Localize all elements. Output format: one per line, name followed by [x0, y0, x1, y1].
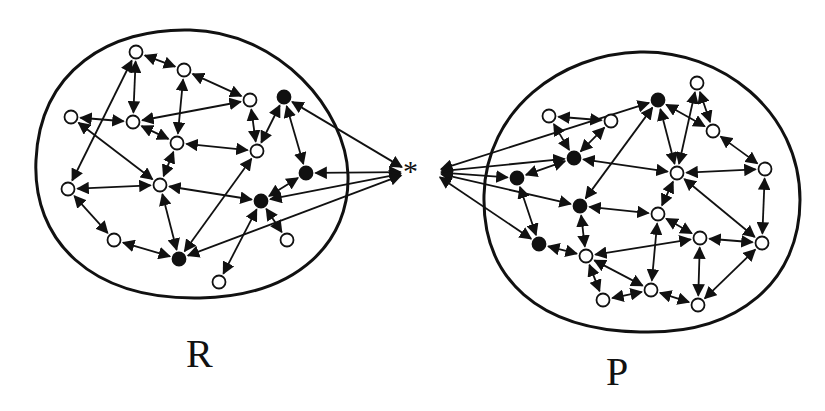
- edge-arrow: [145, 55, 175, 66]
- edge-arrow: [762, 178, 764, 233]
- region-r-boundary: [36, 30, 348, 298]
- network-diagram: [0, 0, 825, 411]
- edge-arrow: [586, 108, 653, 199]
- edge-arrow: [269, 178, 298, 196]
- filled-node: [568, 152, 581, 165]
- filled-node: [533, 238, 546, 251]
- open-node: [605, 115, 618, 128]
- open-node: [756, 237, 769, 250]
- filled-node: [300, 167, 313, 180]
- filled-node: [574, 200, 587, 213]
- edge-arrow: [441, 159, 564, 171]
- edge-arrow: [612, 292, 641, 298]
- open-node: [759, 163, 772, 176]
- edge-arrow: [74, 196, 107, 233]
- edge-arrow: [652, 223, 657, 280]
- open-node: [213, 276, 226, 289]
- edge-arrow: [700, 92, 710, 122]
- edge-arrow: [666, 105, 704, 127]
- edge-arrow: [721, 137, 758, 164]
- edge-arrow: [123, 243, 170, 257]
- open-node: [281, 234, 294, 247]
- edge-arrow: [662, 182, 673, 206]
- open-node: [580, 250, 593, 263]
- open-node: [251, 145, 264, 158]
- edge-arrow: [162, 194, 176, 250]
- region-r-label: R: [186, 334, 213, 374]
- open-node: [178, 64, 191, 77]
- edge-arrow: [142, 126, 169, 139]
- open-node: [244, 94, 257, 107]
- open-node: [671, 167, 684, 180]
- edge-arrow: [581, 128, 605, 152]
- open-node: [543, 110, 556, 123]
- edge-arrow: [79, 123, 153, 179]
- filled-node: [173, 253, 186, 266]
- edge-arrow: [186, 144, 247, 150]
- open-node: [691, 77, 704, 90]
- edge-arrow: [441, 174, 570, 204]
- open-node: [652, 208, 665, 221]
- open-node: [62, 183, 75, 196]
- open-node: [171, 137, 184, 150]
- open-node: [694, 232, 707, 245]
- edge-arrow: [660, 293, 689, 302]
- open-node: [130, 46, 143, 59]
- edge-arrow: [251, 109, 255, 141]
- edge-arrow: [686, 169, 755, 172]
- edge-arrow: [223, 209, 256, 273]
- center-asterisk-node: *: [403, 156, 418, 186]
- open-node: [65, 111, 78, 124]
- edge-arrow: [679, 92, 695, 163]
- open-node: [645, 284, 658, 297]
- edge-arrow: [142, 102, 240, 120]
- filled-node: [278, 91, 291, 104]
- open-node: [597, 294, 610, 307]
- edge-arrow: [660, 109, 674, 164]
- edge-arrow: [133, 61, 135, 112]
- edge-arrow: [589, 265, 599, 291]
- edge-arrow: [270, 174, 400, 199]
- edge-arrow: [315, 172, 400, 173]
- region-p-label: P: [606, 352, 628, 392]
- edge-arrow: [583, 159, 667, 171]
- edge-arrow: [709, 239, 752, 242]
- open-node: [127, 116, 140, 129]
- edge-arrow: [705, 250, 755, 299]
- edge-arrow: [554, 124, 569, 150]
- edge-arrow: [666, 219, 692, 234]
- edge-arrow: [188, 175, 401, 255]
- edge-arrow: [169, 186, 251, 199]
- edge-arrow: [526, 161, 565, 175]
- open-node: [154, 179, 167, 192]
- edge-arrow: [698, 247, 699, 295]
- edge-arrow: [178, 79, 183, 133]
- edge-arrow: [77, 185, 150, 188]
- edge-arrow: [261, 105, 280, 142]
- edge-arrow: [164, 152, 174, 176]
- edge-arrow: [581, 215, 585, 246]
- edge-arrow: [287, 106, 304, 164]
- open-node: [108, 234, 121, 247]
- edge-arrow: [589, 207, 648, 213]
- region-p-boundary: [484, 52, 800, 332]
- edge-arrow: [548, 246, 577, 253]
- filled-node: [511, 172, 524, 185]
- filled-node: [652, 94, 665, 107]
- filled-node: [255, 195, 268, 208]
- edge-arrow: [594, 260, 642, 285]
- edge-arrow: [684, 179, 754, 237]
- edge-arrow: [595, 239, 690, 254]
- open-node: [707, 125, 720, 138]
- open-node: [692, 299, 705, 312]
- edge-arrow: [193, 74, 242, 96]
